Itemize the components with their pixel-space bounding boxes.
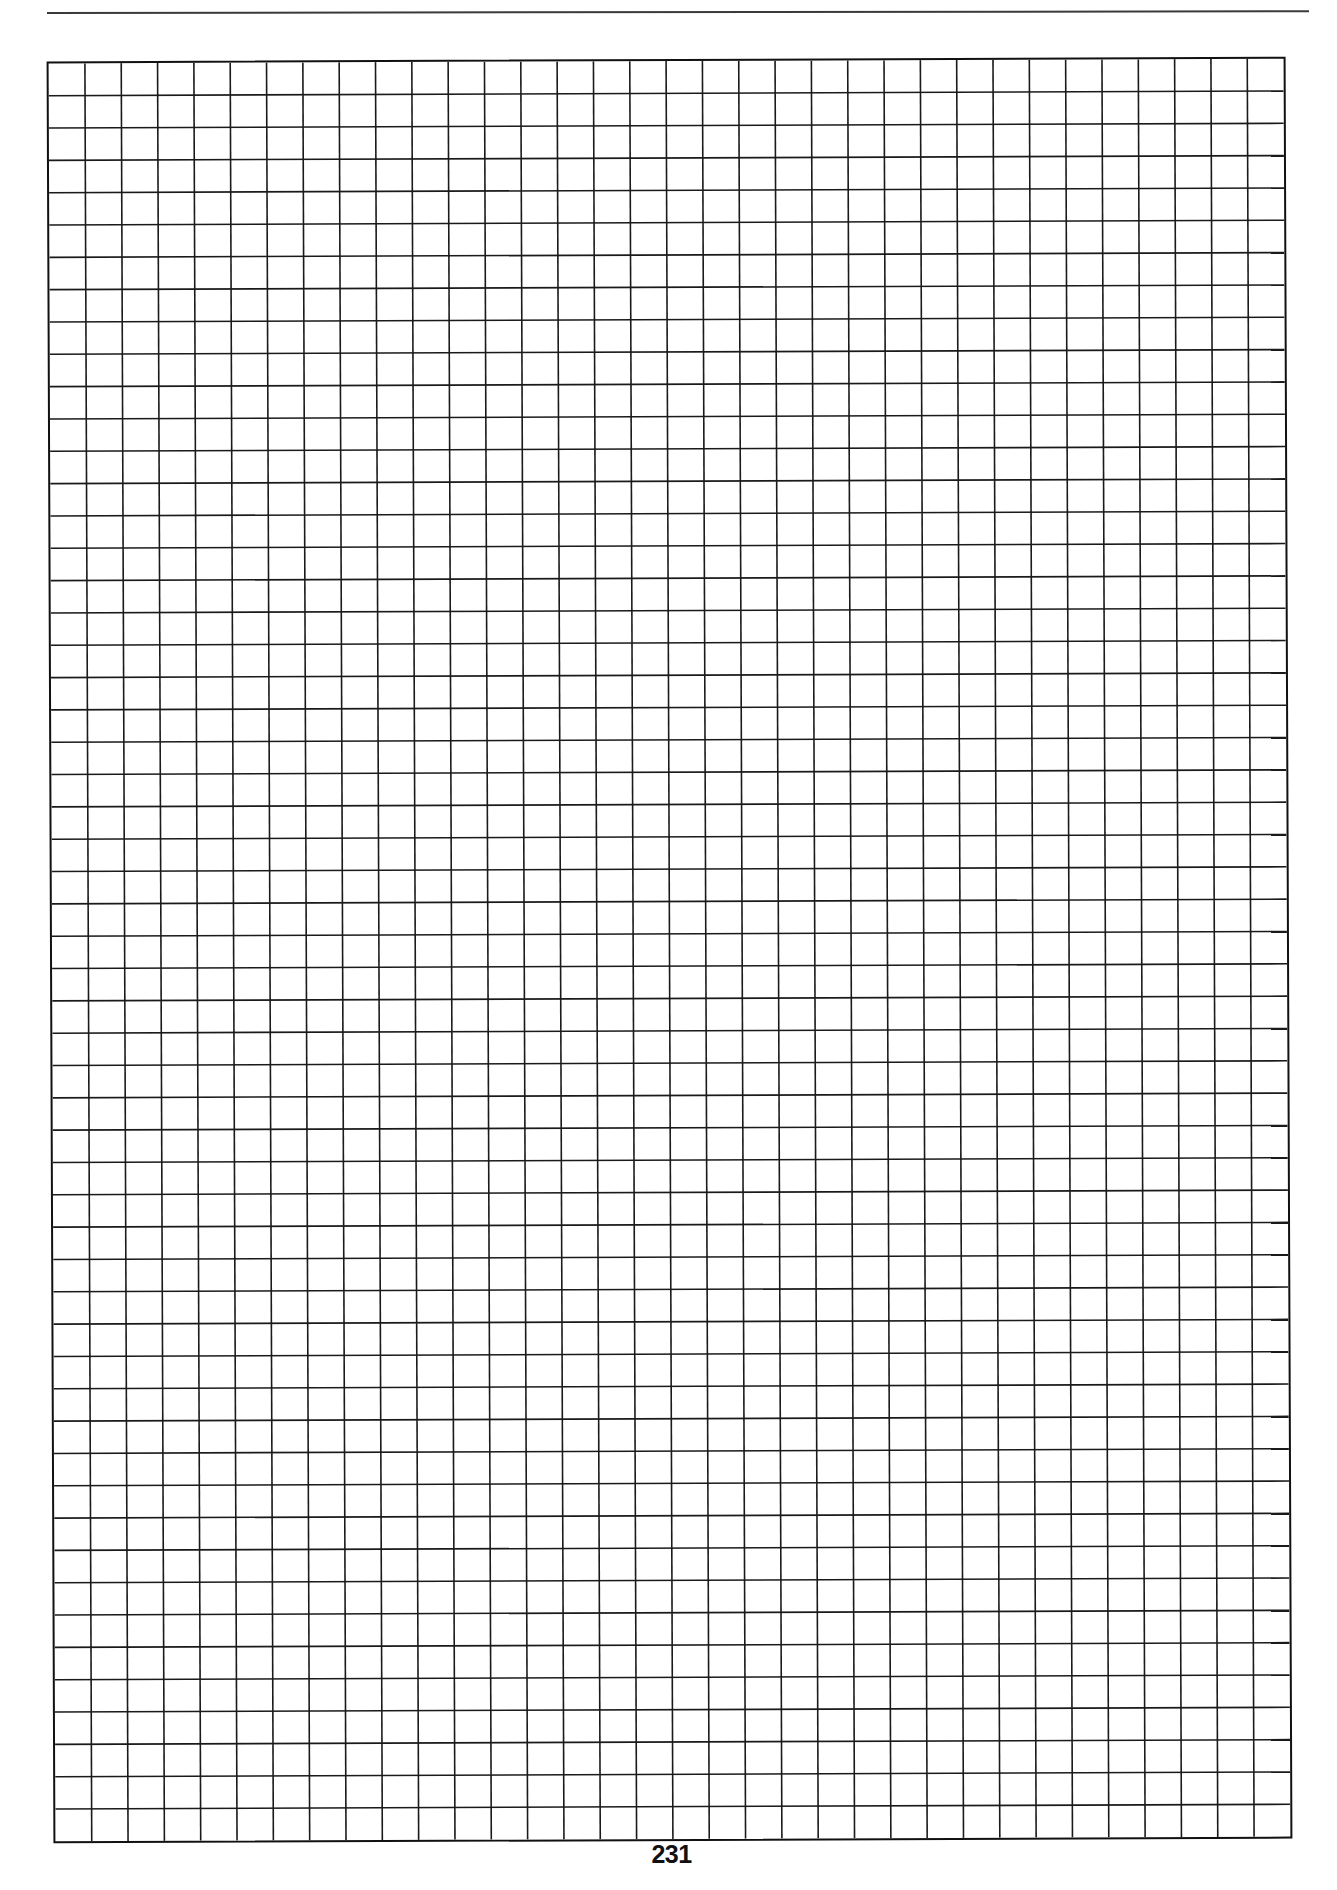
- grid-vertical-line: [230, 63, 237, 1841]
- grid-vertical-line: [194, 63, 201, 1841]
- grid-vertical-line: [1102, 59, 1109, 1837]
- grid-vertical-line: [811, 60, 818, 1838]
- grid-vertical-line: [1029, 60, 1036, 1838]
- grid-vertical-line: [1247, 59, 1254, 1837]
- grid-vertical-line: [739, 61, 746, 1839]
- grid-vertical-line: [1138, 59, 1145, 1837]
- grid-vertical-line: [339, 62, 346, 1840]
- grid-vertical-line: [957, 60, 964, 1838]
- grid-vertical-line: [666, 61, 673, 1839]
- grid-vertical-line: [884, 60, 891, 1838]
- grid-vertical-line: [593, 61, 600, 1839]
- grid-vertical-line: [412, 62, 419, 1840]
- grid-vertical-line: [375, 62, 382, 1840]
- grid-vertical-line: [775, 61, 782, 1839]
- grid-vertical-line: [158, 63, 165, 1841]
- grid-vertical-line: [630, 61, 637, 1839]
- grid-vertical-line: [993, 60, 1000, 1838]
- header-rule: [47, 10, 1309, 14]
- graph-paper-area: [47, 57, 1293, 1844]
- grid-vertical-line: [85, 63, 92, 1841]
- grid-vertical-line: [1066, 59, 1073, 1837]
- grid-vertical-line: [521, 62, 528, 1840]
- grid-vertical-line: [303, 62, 310, 1840]
- grid-vertical-line: [484, 62, 491, 1840]
- grid-vertical-line: [267, 63, 274, 1841]
- grid-vertical-line: [448, 62, 455, 1840]
- grid-vertical-line: [557, 61, 564, 1839]
- grid-lines: [49, 59, 1291, 1842]
- grid-vertical-line: [1211, 59, 1218, 1837]
- grid-vertical-line: [1175, 59, 1182, 1837]
- grid-vertical-line: [121, 63, 128, 1841]
- grid-vertical-line: [920, 60, 927, 1838]
- page-number: 231: [0, 1840, 1337, 1868]
- grid-vertical-line: [702, 61, 709, 1839]
- grid-vertical-line: [848, 60, 855, 1838]
- grid-border: [47, 57, 1293, 1844]
